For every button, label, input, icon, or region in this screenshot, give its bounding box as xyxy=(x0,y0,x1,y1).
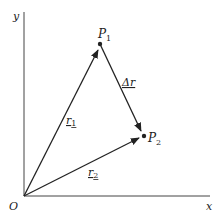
vector-r1 xyxy=(24,50,98,196)
p2-label: P2 xyxy=(147,131,161,147)
p1-label: P1 xyxy=(97,27,111,43)
delta-r-label: Δr xyxy=(121,76,136,89)
vector-r2 xyxy=(24,138,139,196)
point-p1 xyxy=(98,42,102,46)
r1-label: r1 xyxy=(66,114,76,128)
axes xyxy=(24,12,210,196)
vector-diagram: y x O P1 P2 r1 r2 Δr xyxy=(0,0,221,220)
x-axis-label: x xyxy=(206,200,213,213)
point-p2 xyxy=(142,134,146,138)
r2-label: r2 xyxy=(88,166,98,180)
origin-label: O xyxy=(9,200,18,213)
y-axis-label: y xyxy=(12,10,20,23)
